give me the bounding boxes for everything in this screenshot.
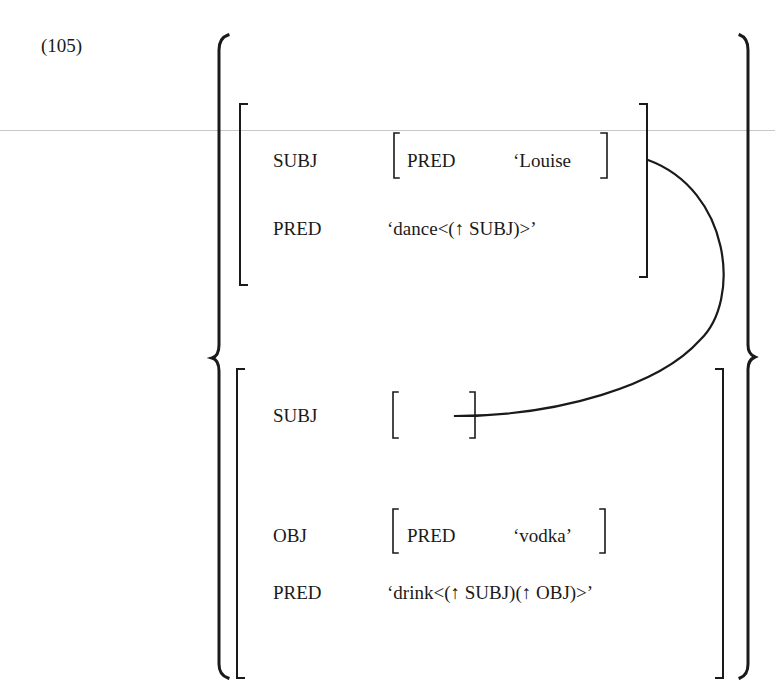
lower-subj-left-bracket-icon: [393, 392, 398, 438]
brackets-layer: [0, 0, 775, 682]
lower-obj-left-bracket-icon: [393, 509, 398, 553]
upper-subj-left-bracket-icon: [394, 133, 399, 178]
upper-left-bracket-icon: [240, 104, 247, 285]
upper-right-bracket-icon: [640, 104, 647, 277]
lower-left-bracket-icon: [237, 369, 244, 678]
lower-right-bracket-icon: [716, 369, 723, 678]
left-brace-icon: [212, 35, 228, 678]
lower-obj-right-bracket-icon: [600, 509, 605, 553]
right-brace-icon: [740, 35, 755, 678]
upper-subj-right-bracket-icon: [601, 133, 607, 178]
structure-sharing-curve: [455, 160, 724, 416]
